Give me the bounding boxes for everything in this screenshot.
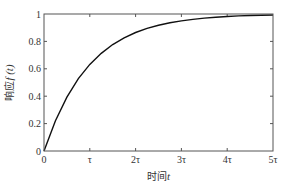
x-axis-title: 时间t [147,170,171,182]
chart: 0τ2τ3τ4τ5τ 00.20.40.60.81 时间t 响应f (t) [0,0,289,194]
x-axis-title-text: 时间 [147,170,167,182]
y-tick-label: 1 [36,9,41,20]
x-tick-label: 4τ [223,154,232,165]
plot-frame [44,14,273,151]
y-tick-label: 0.6 [29,63,42,74]
x-tick-labels: 0τ2τ3τ4τ5τ [42,154,278,165]
y-axis-title-var: f (t) [3,64,16,81]
y-axis-title-text: 响应 [3,81,15,101]
y-tick-label: 0.2 [29,118,42,129]
y-tick-label: 0.8 [29,36,42,47]
y-tick-labels: 00.20.40.60.81 [29,9,42,157]
x-tick-label: 0 [42,154,47,165]
y-tick-label: 0 [36,146,41,157]
x-axis-title-var: t [167,170,171,182]
x-tick-label: 2τ [131,154,140,165]
y-tick-label: 0.4 [29,91,42,102]
tick-marks [44,14,273,151]
x-tick-label: τ [88,154,92,165]
x-tick-label: 3τ [177,154,186,165]
y-axis-title: 响应f (t) [3,64,16,101]
series-line [44,15,273,151]
x-tick-label: 5τ [268,154,277,165]
